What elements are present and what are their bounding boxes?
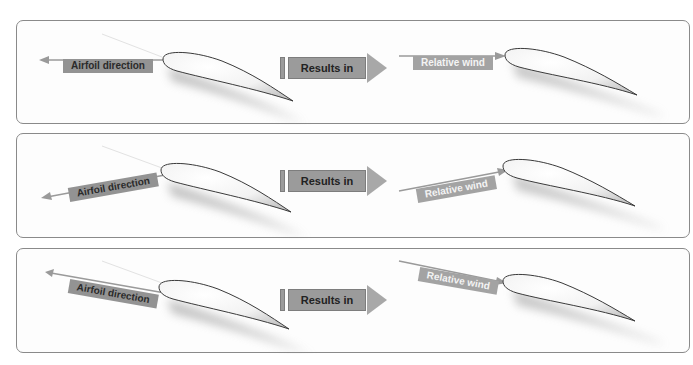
results-in-label: Results in — [288, 57, 366, 79]
results-in-stub — [280, 289, 285, 311]
airfoil-direction-label: Airfoil direction — [63, 59, 153, 73]
results-in-arrow-icon — [367, 285, 387, 315]
results-in-arrow-icon — [367, 53, 387, 83]
panel-climbing-flight: Airfoil direction Results in Relative wi… — [16, 133, 690, 238]
results-in-stub — [280, 57, 285, 79]
panel-level-flight: Airfoil direction Results in Relative wi… — [16, 20, 690, 124]
results-in-stub — [280, 170, 285, 192]
relative-wind-label: Relative wind — [413, 56, 493, 70]
panel-descending-flight: Airfoil direction Results in Relative wi… — [16, 248, 690, 353]
results-in-arrow-icon — [367, 166, 387, 196]
results-in-label: Results in — [288, 170, 366, 192]
results-in-label: Results in — [288, 289, 366, 311]
